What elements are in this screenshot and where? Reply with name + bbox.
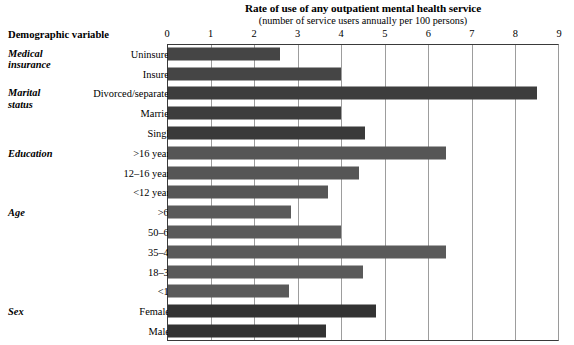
bar <box>168 226 341 239</box>
bar <box>168 206 291 219</box>
x-tick-label-8: 8 <box>513 28 518 39</box>
group-label: Sex <box>8 306 24 317</box>
bar <box>168 107 341 120</box>
bar-row: Males <box>0 321 574 341</box>
chart-title: Rate of use of any outpatient mental hea… <box>167 2 559 15</box>
bar <box>168 166 359 179</box>
group-label-line: Age <box>8 207 25 218</box>
group-label-line: Education <box>8 147 52 158</box>
bar-row: <12 years <box>0 183 574 203</box>
bar <box>168 285 289 298</box>
x-tick-label-7: 7 <box>469 28 474 39</box>
group-label-line: Sex <box>8 306 24 317</box>
x-tick-label-9: 9 <box>556 28 561 39</box>
bar <box>168 127 365 140</box>
bar-row: 50–65 <box>0 222 574 242</box>
bar <box>168 67 341 80</box>
bar-row: Married <box>0 103 574 123</box>
x-tick-label-5: 5 <box>382 28 387 39</box>
bar <box>168 146 446 159</box>
bar <box>168 265 363 278</box>
x-axis-tick-labels: 0123456789 <box>0 28 574 42</box>
bar-row: 35–49 <box>0 242 574 262</box>
group-label-line: Marital <box>8 88 40 100</box>
bar-row: <18 <box>0 282 574 302</box>
chart-subtitle: (number of service users annually per 10… <box>167 15 559 27</box>
bar-row: Education>16 years <box>0 143 574 163</box>
bar <box>168 305 376 318</box>
bar-row: Insured <box>0 64 574 84</box>
x-tick-label-2: 2 <box>252 28 257 39</box>
bar <box>168 47 280 60</box>
bar-row: SexFemales <box>0 301 574 321</box>
bar <box>168 245 446 258</box>
bar-row: 12–16 years <box>0 163 574 183</box>
bar <box>168 325 326 338</box>
group-label-line: Medical <box>8 48 51 60</box>
bar-row: Age>65 <box>0 202 574 222</box>
chart-title-block: Rate of use of any outpatient mental hea… <box>167 2 559 27</box>
category-label: Divorced/separated <box>93 88 174 99</box>
bar-row: MaritalstatusDivorced/separated <box>0 84 574 104</box>
bar-row: Single <box>0 123 574 143</box>
bar-row: MedicalinsuranceUninsured <box>0 44 574 64</box>
group-label: Age <box>8 207 25 218</box>
x-tick-label-6: 6 <box>426 28 431 39</box>
x-tick-label-0: 0 <box>164 28 169 39</box>
x-tick-label-3: 3 <box>295 28 300 39</box>
chart-container: Rate of use of any outpatient mental hea… <box>0 0 574 345</box>
x-tick-label-4: 4 <box>339 28 344 39</box>
category-label: 12–16 years <box>124 167 175 178</box>
bar-row: 18–34 <box>0 262 574 282</box>
bar <box>168 87 537 100</box>
bar <box>168 186 328 199</box>
x-tick-label-1: 1 <box>208 28 213 39</box>
group-label: Education <box>8 147 52 158</box>
bar-rows: MedicalinsuranceUninsuredInsuredMaritals… <box>0 44 574 343</box>
